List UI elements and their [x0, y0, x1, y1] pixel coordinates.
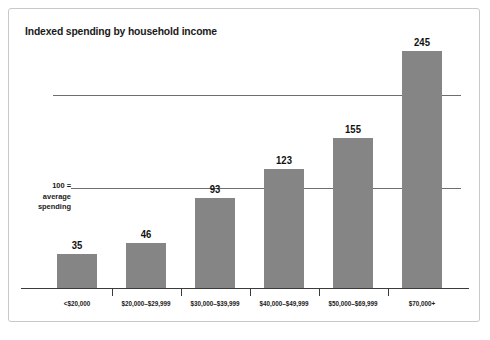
x-axis-line — [21, 288, 469, 289]
bar-5 — [402, 51, 442, 288]
axis-tick-0 — [112, 288, 113, 296]
bar-0 — [57, 254, 97, 288]
bar-value-2: 93 — [196, 184, 234, 195]
bar-1 — [126, 243, 166, 288]
bar-value-4: 155 — [334, 124, 372, 135]
axis-tick-3 — [319, 288, 320, 296]
gridline-200-right-tick — [449, 95, 461, 96]
axis-tick-1 — [181, 288, 182, 296]
gridline-100-right-tick — [449, 188, 461, 189]
baseline-annotation-line-1: 100 = — [19, 181, 71, 192]
bar-2 — [195, 198, 235, 288]
category-label-5: $70,000+ — [391, 300, 454, 307]
bar-value-3: 123 — [265, 155, 303, 166]
baseline-annotation: 100 = average spending — [19, 181, 71, 213]
bar-value-1: 46 — [127, 229, 165, 240]
gridline-200 — [53, 95, 457, 96]
chart-frame: Indexed spending by household income 100… — [8, 8, 480, 322]
category-label-2: $30,000–$39,999 — [184, 300, 247, 307]
axis-tick-2 — [250, 288, 251, 296]
bar-value-0: 35 — [58, 240, 96, 251]
plot-area: 100 = average spending 35 46 93 123 155 … — [9, 9, 481, 323]
category-label-4: $50,000–$69,999 — [322, 300, 385, 307]
bar-value-5: 245 — [403, 37, 441, 48]
axis-tick-4 — [388, 288, 389, 296]
bar-4 — [333, 138, 373, 288]
baseline-annotation-line-2: average — [19, 192, 71, 203]
category-label-1: $20,000–$29,999 — [115, 300, 178, 307]
category-label-3: $40,000–$49,999 — [253, 300, 316, 307]
baseline-annotation-line-3: spending — [19, 202, 71, 213]
category-label-0: <$20,000 — [46, 300, 109, 307]
bar-3 — [264, 169, 304, 288]
